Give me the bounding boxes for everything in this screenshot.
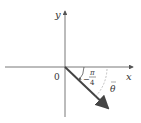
angle-diagram: y x 0 − π 4 θ (0, 0, 141, 123)
origin-label: 0 (54, 72, 60, 82)
angle-sign: − (83, 75, 90, 84)
vector-arrow (65, 67, 108, 108)
angle-arc-theta (95, 69, 107, 97)
x-axis-label: x (126, 71, 132, 82)
theta-label: θ (110, 84, 116, 94)
y-axis-label: y (54, 9, 61, 20)
angle-numerator: π (89, 69, 95, 77)
angle-denominator: 4 (90, 79, 95, 87)
